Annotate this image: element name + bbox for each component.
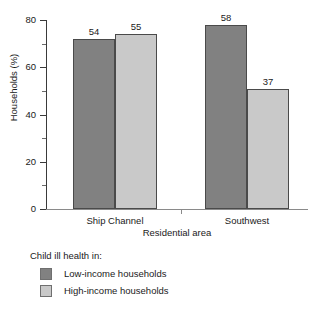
bar xyxy=(115,34,157,209)
y-tick-label: 60 xyxy=(0,62,36,72)
bar xyxy=(247,89,289,209)
bar xyxy=(73,39,115,209)
bar-value-label: 54 xyxy=(73,27,115,37)
bar-value-label: 55 xyxy=(115,22,157,32)
bar-value-label: 37 xyxy=(247,77,289,87)
y-tick-label: 20 xyxy=(0,157,36,167)
legend: Child ill health in: Low-income househol… xyxy=(30,250,270,300)
y-tick-label: 0 xyxy=(0,204,36,214)
y-tick-label: 80 xyxy=(0,15,36,25)
legend-swatch-icon xyxy=(40,285,52,297)
x-axis-line xyxy=(46,209,308,210)
bar xyxy=(205,25,247,209)
y-tick-major xyxy=(40,209,46,210)
plot-area: 54555837 xyxy=(46,20,308,209)
x-category-label: Southwest xyxy=(197,215,297,226)
legend-title: Child ill health in: xyxy=(30,250,270,262)
y-axis-title: Households (%) xyxy=(8,23,19,153)
x-category-label: Ship Channel xyxy=(65,215,165,226)
x-group-separator-tick xyxy=(181,209,182,214)
legend-swatch-icon xyxy=(40,268,52,280)
y-tick-label: 40 xyxy=(0,110,36,120)
legend-entries: Low-income householdsHigh-income househo… xyxy=(30,266,270,298)
bar-chart-figure: Households (%) 020406080 54555837 Ship C… xyxy=(0,0,328,320)
legend-item[interactable]: High-income households xyxy=(30,283,270,298)
legend-item-label: High-income households xyxy=(64,285,169,297)
bar-value-label: 58 xyxy=(205,13,247,23)
legend-item[interactable]: Low-income households xyxy=(30,266,270,281)
legend-item-label: Low-income households xyxy=(64,268,166,280)
x-axis-title: Residential area xyxy=(46,227,308,238)
